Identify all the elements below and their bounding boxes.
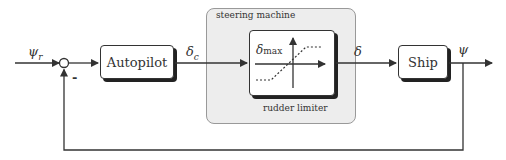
rudder-angle-label: δ — [354, 44, 362, 59]
summing-junction — [60, 59, 69, 68]
commanded-rudder-label: δc — [186, 44, 199, 62]
reference-heading-label: ψr — [28, 44, 43, 62]
heading-label: ψ — [458, 42, 468, 57]
feedback-sign: - — [72, 70, 77, 85]
